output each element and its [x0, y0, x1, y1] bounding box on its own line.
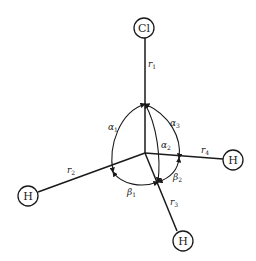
bond-r3	[145, 153, 177, 231]
atom-h-left: H	[18, 186, 38, 206]
label-alpha1: α1	[108, 122, 118, 133]
label-r3: r3	[170, 197, 178, 208]
bond-r4	[145, 153, 223, 159]
atom-cl: Cl	[134, 18, 154, 38]
label-beta2: β2	[172, 172, 182, 183]
label-r2: r2	[67, 165, 75, 176]
label-alpha3: α3	[170, 118, 180, 129]
atom-h-left-symbol: H	[23, 190, 33, 203]
arc-beta1	[113, 172, 158, 185]
bonds	[38, 38, 223, 231]
methyl-chloride-geometry-diagram: Cl H H H r1 r2 r3 r4 α1 α2 α3 β1 β2	[0, 0, 256, 261]
label-r4: r4	[201, 145, 209, 156]
arc-alpha1	[112, 104, 145, 172]
atom-h-right: H	[223, 150, 243, 170]
label-r1: r1	[148, 59, 156, 70]
atom-h-bottom-symbol: H	[178, 235, 188, 248]
atom-h-bottom: H	[173, 231, 193, 251]
atom-h-right-symbol: H	[228, 154, 238, 167]
atom-cl-symbol: Cl	[138, 22, 150, 35]
label-beta1: β1	[126, 187, 136, 198]
label-alpha2: α2	[161, 140, 171, 151]
